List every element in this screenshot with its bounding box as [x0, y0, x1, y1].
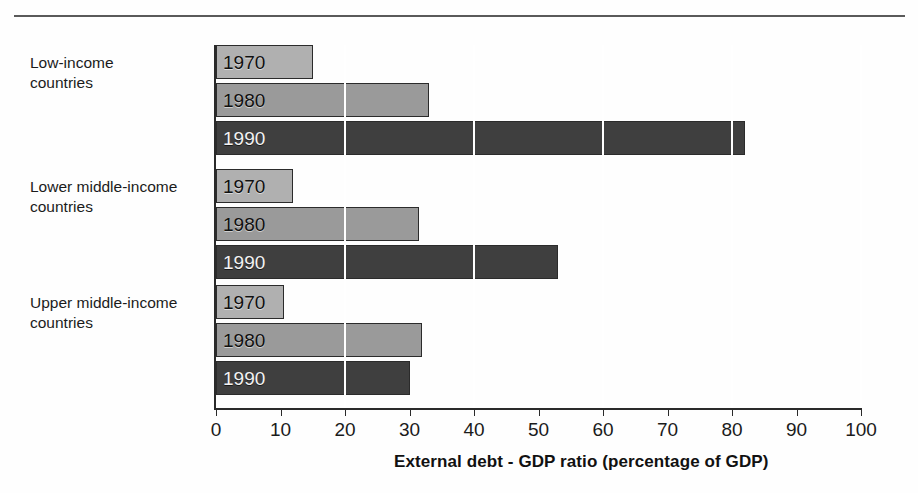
- x-tick-label-100: 100: [845, 419, 877, 441]
- bar-year-label: 1970: [223, 293, 265, 312]
- x-tick-label-90: 90: [786, 419, 807, 441]
- chart-figure: Low-income countriesLower middle-income …: [0, 0, 918, 493]
- x-tick-label-20: 20: [334, 419, 355, 441]
- bar-1-1990: 1990: [216, 245, 558, 279]
- gridline-60: [602, 45, 604, 408]
- category-label-0: Low-income countries: [30, 53, 114, 93]
- x-tick-label-60: 60: [592, 419, 613, 441]
- bar-2-1980: 1980: [216, 323, 422, 357]
- bar-year-label: 1980: [223, 215, 265, 234]
- bar-0-1970: 1970: [216, 45, 313, 79]
- gridline-80: [731, 45, 733, 408]
- bar-year-label: 1980: [223, 91, 265, 110]
- x-tick-20: [345, 408, 346, 416]
- bar-2-1990: 1990: [216, 361, 410, 395]
- x-tick-label-40: 40: [463, 419, 484, 441]
- x-tick-60: [603, 408, 604, 416]
- gridline-100: [860, 45, 862, 408]
- x-tick-100: [861, 408, 862, 416]
- x-tick-50: [539, 408, 540, 416]
- bar-year-label: 1990: [223, 369, 265, 388]
- x-tick-label-80: 80: [721, 419, 742, 441]
- figure-title-cropped: [0, 0, 918, 2]
- x-tick-40: [474, 408, 475, 416]
- bar-2-1970: 1970: [216, 285, 284, 319]
- x-tick-90: [797, 408, 798, 416]
- header-divider: [14, 15, 905, 17]
- x-axis-title: External debt - GDP ratio (percentage of…: [394, 452, 768, 472]
- x-tick-label-0: 0: [211, 419, 222, 441]
- bar-year-label: 1990: [223, 129, 265, 148]
- x-tick-30: [410, 408, 411, 416]
- plot-area: 197019801990197019801990197019801990 010…: [216, 45, 861, 408]
- category-label-1: Lower middle-income countries: [30, 177, 177, 217]
- x-tick-10: [281, 408, 282, 416]
- x-tick-0: [216, 408, 217, 416]
- bar-0-1980: 1980: [216, 83, 429, 117]
- bar-1-1980: 1980: [216, 207, 419, 241]
- bar-0-1990: 1990: [216, 121, 745, 155]
- bar-year-label: 1970: [223, 53, 265, 72]
- category-label-2: Upper middle-income countries: [30, 293, 177, 333]
- x-tick-70: [668, 408, 669, 416]
- x-tick-label-30: 30: [399, 419, 420, 441]
- bar-1-1970: 1970: [216, 169, 293, 203]
- bar-year-label: 1980: [223, 331, 265, 350]
- x-tick-label-50: 50: [528, 419, 549, 441]
- x-tick-80: [732, 408, 733, 416]
- bar-year-label: 1990: [223, 253, 265, 272]
- bar-year-label: 1970: [223, 177, 265, 196]
- x-tick-label-70: 70: [657, 419, 678, 441]
- gridline-40: [473, 45, 475, 408]
- x-tick-label-10: 10: [270, 419, 291, 441]
